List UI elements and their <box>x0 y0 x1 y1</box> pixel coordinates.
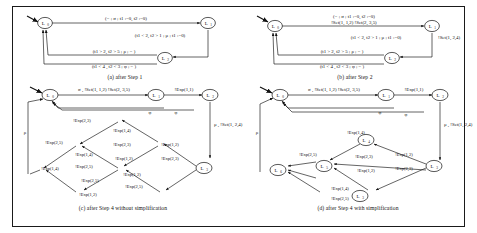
panel-d-node-l1: L 1 <box>378 89 394 100</box>
panel-d-caption: (d) after Step 4 with simplification <box>268 205 448 211</box>
panel-b-caption: (b) after Step 2 <box>290 74 420 80</box>
panel-d-edge-label-1: !Exp(1,1) <box>405 87 424 93</box>
panel-c-node-l5 <box>115 163 129 173</box>
panel-c-node-l3: L 3 <box>196 162 212 173</box>
panel-a-initial-arrow <box>27 16 38 22</box>
panel-a-edge-label-1: (t1 < 2, t2 > 1 ; μ ; t1 :=0) <box>135 33 186 39</box>
panel-c-node-l0-label: L <box>46 93 49 98</box>
panel-a-node-l1: L 1 <box>201 17 216 28</box>
panel-c-initial-arrow <box>30 87 42 93</box>
panel-c-node-l6 <box>33 163 47 173</box>
panel-c-edge-phi-2 <box>53 103 194 110</box>
panel-a-edge-label-2: (t1 > 2, t2 > 5 ; ρ ; − ) <box>93 49 136 55</box>
panel-d-edge-label-12: !Exp(1,4) <box>331 186 349 192</box>
panel-d-edge-phi-2 <box>283 103 424 112</box>
panel-b-node-l1-label: L <box>429 24 432 29</box>
panel-c-edge-label-8: !Exp(2,5) <box>45 140 63 146</box>
panel-d-node-l3: L 3 <box>426 160 442 171</box>
panel-a-node-l0: L 0 <box>38 17 53 28</box>
panel-c-edge-label-16: !Exp(2,5) <box>81 178 99 184</box>
panel-b-edge-l1-l2 <box>400 33 432 57</box>
panel-d-graph: σ , !Set(1, 1,2) !Set(2, 3,5) !Exp(1,1) … <box>248 86 460 202</box>
panel-c-edge-label-6: !Exp(2,3) <box>73 118 91 124</box>
panel-c-edge-label-19: !Exp(1,2) <box>79 192 97 198</box>
panel-c-edge-label-17: !Exp(1,2) <box>123 172 141 178</box>
panel-d-node-l7-sub: 3 <box>362 196 364 200</box>
panel-d-node-l4: L 4 <box>358 134 374 145</box>
panel-d-node-l3-sub: 3 <box>436 166 438 170</box>
panel-d-edge-label-9: !Exp(1,2) <box>357 168 375 174</box>
panel-c-edge-label-3: ρ <box>24 130 27 135</box>
panel-d-node-l5-sub: 5 <box>326 166 328 170</box>
panel-c-edge-label-1: !Exp(1,1) <box>175 87 194 93</box>
panel-c-node-l1-sub: 1 <box>158 95 160 99</box>
panel-d-edge-label-11: !Exp(2,3) <box>395 166 413 172</box>
panel-d-node-l1-sub: 1 <box>388 95 390 99</box>
panel-a-node-l1-sub: 1 <box>210 23 212 27</box>
panel-b-edge-label-4: (t1 > 2, t2 > 5 ; ρ ; − ) <box>321 49 364 55</box>
panel-b-node-l2: L 2 <box>385 52 400 63</box>
figure-root: (− ; σ ; t1 :=0, t2 :=0) (t1 < 2, t2 > 1… <box>0 0 477 233</box>
panel-a-node-l2-sub: 2 <box>167 58 169 62</box>
panel-b: (− ; σ ; t1 :=0, t2 :=0) !Set(1, 1,2) !S… <box>248 10 460 72</box>
panel-c-edge-label-7: !Exp(1,4) <box>113 128 131 134</box>
panel-c-node-l3-label: L <box>200 166 203 171</box>
panel-d-node-l6: L 6 <box>270 164 286 175</box>
panel-c-node-l4 <box>157 139 171 149</box>
panel-c-edge-label-0: σ , !Set(1, 1,2) !Set(2, 3,5) <box>78 87 130 93</box>
panel-d-edge-phi-1 <box>282 101 394 108</box>
panel-b-node-l0-label: L <box>272 24 275 29</box>
panel-d-node-l0: L 0 <box>272 89 288 100</box>
panel-a: (− ; σ ; t1 :=0, t2 :=0) (t1 < 2, t2 > 1… <box>18 10 228 72</box>
panel-c-node-l2: L 2 <box>202 89 218 100</box>
panel-c-node-l1: L 1 <box>148 89 164 100</box>
panel-d-node-l7: L 3 <box>352 190 368 201</box>
panel-d-node-l5-label: L <box>320 164 323 169</box>
panel-a-graph: (− ; σ ; t1 :=0, t2 :=0) (t1 < 2, t2 > 1… <box>18 10 228 72</box>
panel-d-node-l4-label: L <box>362 138 365 143</box>
panel-b-node-l1-sub: 1 <box>434 26 436 30</box>
panel-d-edge-label-8: !Exp(2,3) <box>355 154 373 160</box>
panel-b-node-l1: L 1 <box>425 20 440 31</box>
panel-d: σ , !Set(1, 1,2) !Set(2, 3,5) !Exp(1,1) … <box>248 86 460 202</box>
panel-c-edge-label-9: !Exp(2,3) <box>113 142 131 148</box>
panel-c-edge-label-13: !Exp(1,2) <box>115 156 133 162</box>
panel-c-edge-phi-1 <box>52 101 164 108</box>
panel-c-caption: (c) after Step 4 without simplification <box>28 205 218 211</box>
panel-d-node-l1-label: L <box>382 93 385 98</box>
panel-b-edge-label-2: (t1 < 2, t2 > 1 ; μ ; t1 :=0) <box>351 35 402 41</box>
panel-a-node-l2-label: L <box>162 56 165 61</box>
panel-d-edge-label-4: φ <box>379 110 382 115</box>
panel-d-node-l3-label: L <box>430 164 433 169</box>
panel-d-node-l7-label: L <box>356 194 359 199</box>
panel-d-node-l2-sub: 2 <box>442 95 444 99</box>
panel-d-initial-arrow <box>260 87 272 93</box>
panel-a-node-l2: L 2 <box>158 52 173 63</box>
panel-c-edge-label-12: !Exp(2,5) <box>75 164 93 170</box>
panel-c-node-l2-sub: 2 <box>212 95 214 99</box>
panel-d-edge-label-5: φ <box>405 112 408 117</box>
panel-a-node-l0-sub: 0 <box>47 23 49 27</box>
panel-d-edge-label-10: !Exp(1,2) <box>395 152 413 158</box>
panel-c-node-l1-label: L <box>152 93 155 98</box>
panel-d-edge-label-0: σ , !Set(1, 1,2) !Set(2, 3,5) <box>308 87 360 93</box>
panel-d-edge-label-3: ρ <box>256 130 259 135</box>
panel-c-node-l3-sub: 3 <box>206 168 208 172</box>
panel-c-edge-label-5: φ <box>175 110 178 115</box>
panel-c-node-l0-sub: 0 <box>52 95 54 99</box>
panel-d-node-l0-label: L <box>276 93 279 98</box>
panel-b-node-l2-sub: 2 <box>394 58 396 62</box>
panel-d-node-l2: L 2 <box>432 89 448 100</box>
panel-c-edge-label-4: φ <box>149 110 152 115</box>
panel-c-edge-label-11: !Exp(1,4) <box>75 152 93 158</box>
panel-d-node-l4-sub: 4 <box>368 140 370 144</box>
panel-d-node-l6-label: L <box>274 168 277 173</box>
panel-d-edge-label-7: !Exp(2,5) <box>299 152 317 158</box>
panel-b-graph: (− ; σ ; t1 :=0, t2 :=0) !Set(1, 1,2) !S… <box>248 10 460 72</box>
panel-a-edge-label-3: (t1 < 4 , t2 < 3 ; φ ; − ) <box>92 64 137 70</box>
panel-a-node-l0-label: L <box>42 21 45 26</box>
panel-d-edge-label-13: !Exp(2,5) <box>331 196 349 202</box>
panel-d-node-l6-sub: 6 <box>280 170 282 174</box>
panel-b-node-l0-sub: 0 <box>277 26 279 30</box>
panel-b-edge-label-3: !Set(1, 2,4) <box>438 35 461 41</box>
